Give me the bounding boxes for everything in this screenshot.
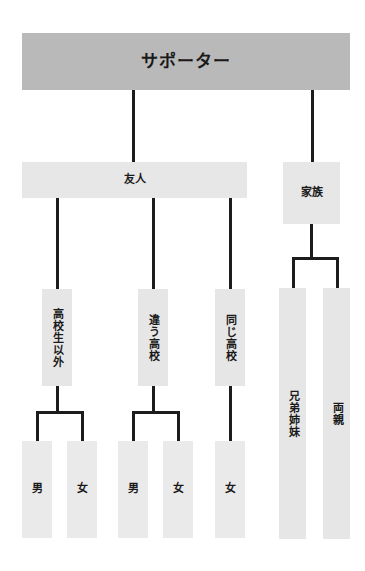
connector-root-to-family	[311, 90, 314, 162]
connector-family-stem	[310, 224, 313, 257]
connector-non-highschool-bracket	[36, 411, 84, 414]
node-different-highschool-male: 男	[118, 441, 148, 538]
node-family: 家族	[283, 162, 340, 224]
connector-friends-to-same-highschool	[229, 198, 232, 289]
connector-non-highschool-to-male	[36, 411, 39, 441]
diagram-canvas: サポーター 友人 家族 高校生以外 違う高校 同じ高校 兄弟姉妹 両親 男 女	[0, 0, 365, 571]
node-non-highschool-female: 女	[67, 441, 97, 538]
connector-different-highschool-to-male	[132, 411, 135, 441]
node-same-highschool-label: 同じ高校	[224, 314, 237, 362]
connector-root-to-friends	[132, 90, 135, 162]
node-non-highschool-label: 高校生以外	[51, 308, 64, 368]
node-same-highschool: 同じ高校	[215, 289, 245, 386]
node-siblings: 兄弟姉妹	[279, 288, 306, 539]
node-non-highschool: 高校生以外	[42, 289, 72, 386]
connector-friends-to-different-highschool	[152, 198, 155, 289]
node-different-highschool-label: 違う高校	[147, 314, 160, 362]
connector-non-highschool-to-female	[81, 411, 84, 441]
connector-different-highschool-bracket	[132, 411, 180, 414]
connector-same-highschool-to-female	[229, 386, 232, 441]
node-different-highschool-female: 女	[163, 441, 193, 538]
connector-different-highschool-stem	[152, 386, 155, 411]
node-parents: 両親	[323, 288, 350, 539]
node-non-highschool-male: 男	[22, 441, 52, 538]
connector-non-highschool-stem	[56, 386, 59, 411]
connector-different-highschool-to-female	[177, 411, 180, 441]
node-friends: 友人	[22, 162, 247, 198]
node-different-highschool: 違う高校	[138, 289, 168, 386]
node-parents-label: 両親	[330, 402, 343, 426]
connector-family-to-parents	[336, 257, 339, 288]
connector-family-bracket	[292, 257, 339, 260]
connector-family-to-siblings	[292, 257, 295, 288]
node-siblings-label: 兄弟姉妹	[286, 390, 299, 438]
node-supporter: サポーター	[22, 33, 350, 90]
node-same-highschool-female: 女	[215, 441, 245, 538]
connector-friends-to-non-highschool	[56, 198, 59, 289]
